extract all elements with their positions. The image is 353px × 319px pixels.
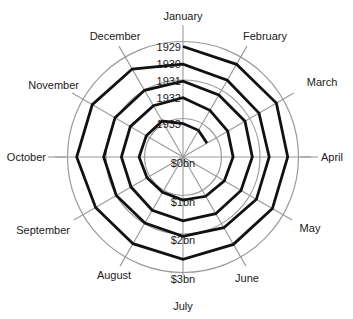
month-label-may: May xyxy=(300,222,321,234)
month-label-december: December xyxy=(90,30,141,42)
month-label-march: March xyxy=(307,76,338,88)
month-label-april: April xyxy=(321,151,343,163)
year-label-1930: 1930 xyxy=(157,58,181,70)
month-label-october: October xyxy=(7,151,46,163)
trade-spiral-line xyxy=(77,47,288,260)
month-label-july: July xyxy=(173,300,193,312)
radial-label-1: $1bn xyxy=(171,196,195,208)
year-label-1933: 1933 xyxy=(157,118,181,130)
month-label-february: February xyxy=(243,30,288,42)
month-label-november: November xyxy=(28,79,79,91)
year-label-1929: 1929 xyxy=(157,41,181,53)
year-label-1931: 1931 xyxy=(157,75,181,87)
year-labels: 19291930193119321933 xyxy=(157,41,181,130)
month-label-august: August xyxy=(97,269,131,281)
radial-label-2: $2bn xyxy=(171,234,195,246)
radial-label-0: $0bn xyxy=(171,157,195,169)
year-label-1932: 1932 xyxy=(157,92,181,104)
month-label-january: January xyxy=(163,10,203,22)
spiral-chart: 19291930193119321933 $0bn$1bn$2bn$3bn Ja… xyxy=(0,0,353,319)
radial-label-3: $3bn xyxy=(171,273,195,285)
month-label-june: June xyxy=(235,272,259,284)
month-label-september: September xyxy=(16,224,70,236)
